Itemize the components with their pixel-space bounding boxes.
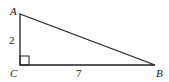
- right-angle-marker: [20, 56, 29, 65]
- vertex-label-a: A: [9, 5, 17, 17]
- triangle-diagram: A C B 2 7: [0, 0, 169, 82]
- side-label-cb: 7: [76, 67, 82, 79]
- side-label-ac: 2: [9, 34, 15, 46]
- triangle-abc: [20, 14, 155, 65]
- vertex-label-c: C: [10, 67, 18, 79]
- vertex-label-b: B: [156, 67, 163, 79]
